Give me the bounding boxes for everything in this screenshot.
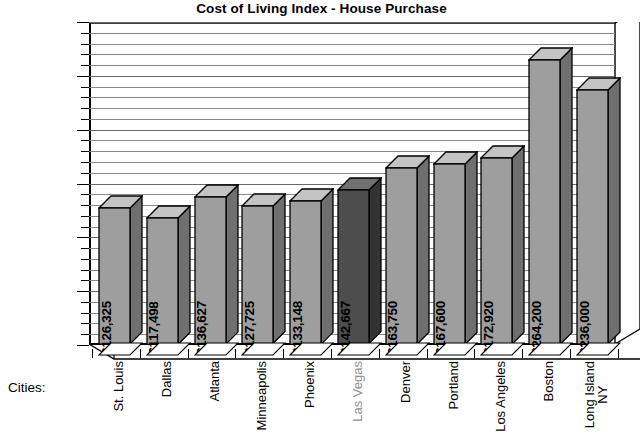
x-axis-tick: [331, 349, 332, 358]
bar: $167,600: [433, 153, 464, 345]
x-axis-tick: [570, 349, 571, 358]
y-axis-minor-tick: [81, 119, 89, 120]
x-axis-title: Cities:: [8, 380, 46, 395]
y-axis-minor-tick: [81, 140, 89, 141]
bar-value-label-wrap: $167,600: [433, 327, 464, 328]
x-axis-labels: St. LouisDallasAtlantaMinneapolisPhoenix…: [89, 349, 643, 442]
x-axis-tick: [379, 349, 380, 358]
y-axis-minor-tick: [81, 194, 89, 195]
x-axis-tick: [522, 349, 523, 358]
bar-value-label-wrap: $136,627: [194, 327, 225, 328]
y-axis-minor-tick: [81, 33, 89, 34]
y-axis-minor-tick: [81, 248, 89, 249]
bar-value-label-wrap: $142,667: [337, 327, 368, 328]
y-axis-major-tick: [77, 22, 89, 23]
y-axis-minor-tick: [81, 151, 89, 152]
bar: $127,725: [241, 195, 272, 345]
y-axis-major-tick: [77, 184, 89, 185]
y-axis-major-tick: [77, 76, 89, 77]
y-axis-minor-tick: [81, 227, 89, 228]
x-axis-tick: [283, 349, 284, 358]
x-axis-tick: [235, 349, 236, 358]
y-axis-minor-tick: [81, 97, 89, 98]
y-axis-major-tick: [77, 345, 89, 346]
y-axis: $0$50,000$100,000$150,000$200,000$250,00…: [0, 0, 89, 400]
bar-value-label-wrap: $126,325: [98, 327, 129, 328]
y-axis-minor-tick: [81, 162, 89, 163]
y-axis-minor-tick: [81, 87, 89, 88]
y-axis-minor-tick: [81, 313, 89, 314]
x-axis-label-text: Boston: [541, 361, 556, 401]
x-axis-tick: [92, 349, 93, 358]
x-axis-label-text: Long IslandNY: [583, 361, 609, 428]
x-axis-label-text: St. Louis: [111, 361, 126, 412]
bar-series: $126,325$117,498$136,627$127,725$133,148…: [89, 22, 615, 345]
y-axis-minor-tick: [81, 302, 89, 303]
bar: $163,750: [385, 157, 416, 345]
bar: $264,200: [528, 49, 559, 345]
x-axis-label-text: Las Vegas: [350, 361, 365, 422]
x-axis-label-text: Atlanta: [207, 361, 222, 401]
y-axis-minor-tick: [81, 259, 89, 260]
y-axis-minor-tick: [81, 323, 89, 324]
bar-value-label-wrap: $117,498: [146, 327, 177, 328]
bar-value-label-wrap: $127,725: [241, 327, 272, 328]
x-axis-tick: [618, 349, 619, 358]
bar: $142,667: [337, 179, 368, 345]
bar: $172,920: [480, 147, 511, 345]
x-axis-label-text: Dallas: [159, 361, 174, 397]
bar: $236,000: [576, 79, 607, 345]
y-axis-major-tick: [77, 130, 89, 131]
y-axis-minor-tick: [81, 65, 89, 66]
x-axis-label-text: Minneapolis: [254, 361, 269, 430]
x-axis-tick: [427, 349, 428, 358]
chart-container: Cost of Living Index - House Purchase $0…: [0, 0, 643, 442]
y-axis-major-tick: [77, 291, 89, 292]
bar-value-label-wrap: $133,148: [289, 327, 320, 328]
bar: $133,148: [289, 190, 320, 345]
bar-value-label-wrap: $264,200: [528, 327, 559, 328]
y-axis-minor-tick: [81, 280, 89, 281]
y-axis-major-tick: [77, 237, 89, 238]
plot-area: $126,325$117,498$136,627$127,725$133,148…: [89, 22, 615, 345]
chart-title: Cost of Living Index - House Purchase: [0, 1, 643, 16]
bar-value-label-wrap: $236,000: [576, 327, 607, 328]
x-axis-tick: [140, 349, 141, 358]
y-axis-minor-tick: [81, 334, 89, 335]
y-axis-minor-tick: [81, 173, 89, 174]
bar: $126,325: [98, 197, 129, 345]
x-axis-tick: [188, 349, 189, 358]
y-axis-minor-tick: [81, 108, 89, 109]
bar-value-label-wrap: $172,920: [480, 327, 511, 328]
y-axis-minor-tick: [81, 216, 89, 217]
bar: $117,498: [146, 207, 177, 346]
y-axis-minor-tick: [81, 205, 89, 206]
y-axis-minor-tick: [81, 54, 89, 55]
bar: $136,627: [194, 186, 225, 345]
y-axis-minor-tick: [81, 44, 89, 45]
x-axis-label-text: Portland: [446, 361, 461, 409]
y-axis-minor-tick: [81, 270, 89, 271]
x-axis-label-text: Denver: [398, 361, 413, 403]
x-axis-label-text: Los Angeles: [493, 361, 508, 432]
x-axis-tick: [474, 349, 475, 358]
x-axis-label-text: Phoenix: [302, 361, 317, 408]
bar-value-label-wrap: $163,750: [385, 327, 416, 328]
